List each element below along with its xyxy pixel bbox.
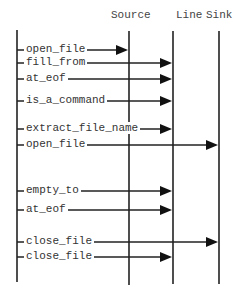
message-label: close_file: [24, 250, 94, 262]
message-label: at_eof: [24, 203, 68, 215]
arrowhead-icon: [160, 205, 172, 215]
arrowhead-icon: [160, 252, 172, 262]
message-label: open_file: [24, 138, 87, 150]
message-label: close_file: [24, 235, 94, 247]
message-label: open_file: [24, 43, 87, 55]
arrowhead-icon: [160, 96, 172, 106]
message-label: empty_to: [24, 184, 81, 196]
message-label: fill_from: [24, 56, 87, 68]
message-label: is_a_command: [24, 94, 107, 106]
arrowhead-icon: [160, 124, 172, 134]
sequence-diagram: Source Line Sink open_filefill_fromat_eo…: [0, 0, 237, 298]
arrowhead-icon: [206, 237, 218, 247]
arrowhead-icon: [116, 45, 128, 55]
arrowhead-icon: [160, 74, 172, 84]
message-label: extract_file_name: [24, 122, 140, 134]
arrowhead-icon: [160, 186, 172, 196]
arrowhead-icon: [206, 140, 218, 150]
message-label: at_eof: [24, 72, 68, 84]
arrowhead-icon: [160, 58, 172, 68]
